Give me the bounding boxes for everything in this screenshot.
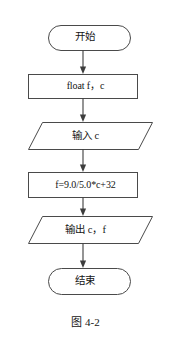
edge-compute-to-output-arrowhead [80,209,86,217]
node-output-label: 输出 c，f [0,225,171,236]
node-input-label: 输入 c [0,131,171,142]
edge-start-to-declare-arrowhead [80,67,86,75]
node-end-label: 结束 [0,276,171,287]
node-compute-label: f=9.0/5.0*c+32 [0,180,171,190]
edge-input-to-compute-arrowhead [80,165,86,173]
figure-caption: 图 4-2 [0,313,171,329]
node-declare-label: float f，c [0,81,171,91]
edge-output-to-end-arrowhead [80,261,86,269]
flowchart-canvas [0,0,171,346]
node-start-label: 开始 [0,32,171,43]
edge-declare-to-input-arrowhead [80,115,86,123]
